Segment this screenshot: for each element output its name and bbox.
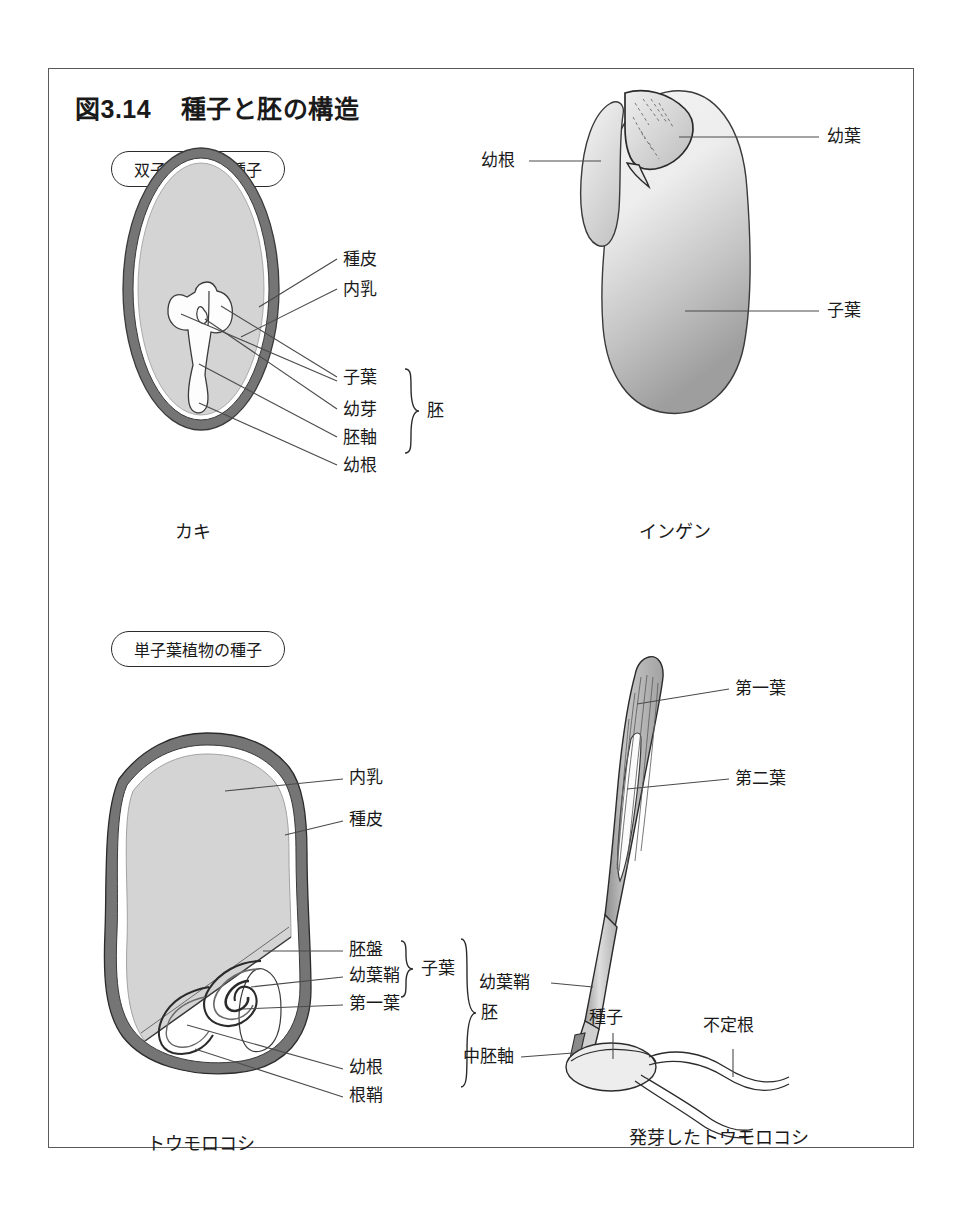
label-seedling-seed: 種子 <box>589 1009 623 1026</box>
label-seedling-first-leaf: 第一葉 <box>735 680 786 697</box>
persimmon-seed-illustration <box>49 69 489 539</box>
leader-seedling-mesocotyl <box>521 1053 573 1057</box>
corn-kernel-illustration <box>49 669 489 1149</box>
figure-frame: 図3.14 種子と胚の構造 双子葉植物の種子 単子葉植物の種子 <box>48 68 914 1148</box>
label-seedling-mesocotyl: 中胚軸 <box>463 1048 514 1065</box>
seedling-adventitious-root-1 <box>649 1052 789 1082</box>
leader-radicle <box>199 403 337 465</box>
label-bean-radicle: 幼根 <box>481 152 515 169</box>
panel-corn-kernel: 内乳 種皮 胚盤 幼葉鞘 第一葉 幼根 根鞘 子葉 胚 トウモロコシ <box>49 669 489 1149</box>
label-corn-seed-coat: 種皮 <box>349 811 383 828</box>
label-corn-scutellum: 胚盤 <box>349 941 383 958</box>
label-bean-cotyledon: 子葉 <box>827 302 861 319</box>
label-seedling-coleoptile: 幼葉鞘 <box>479 974 530 991</box>
caption-corn-kernel: トウモロコシ <box>147 1129 255 1155</box>
label-corn-endosperm: 内乳 <box>349 769 383 786</box>
caption-bean: インゲン <box>639 517 711 543</box>
bean-radicle-shape <box>581 102 624 247</box>
label-corn-coleoptile: 幼葉鞘 <box>349 967 400 984</box>
label-seed-coat: 種皮 <box>343 251 377 268</box>
seedling-seed-shape <box>566 1043 656 1091</box>
label-bean-young-leaf: 幼葉 <box>827 128 861 145</box>
panel-bean: 幼根 幼葉 子葉 インゲン <box>489 69 915 539</box>
label-embryo-brace: 胚 <box>427 402 444 419</box>
brace-embryo <box>405 369 419 453</box>
label-hypocotyl: 胚軸 <box>343 429 377 446</box>
panel-persimmon: 種皮 内乳 子葉 幼芽 胚軸 幼根 胚 カキ <box>49 69 489 539</box>
caption-corn-seedling: 発芽したトウモロコシ <box>629 1123 809 1149</box>
label-seedling-adventitious-root: 不定根 <box>703 1017 754 1034</box>
label-endosperm: 内乳 <box>343 281 377 298</box>
label-plumule: 幼芽 <box>343 401 377 418</box>
label-cotyledon: 子葉 <box>343 369 377 386</box>
label-corn-cotyledon-brace: 子葉 <box>421 960 455 977</box>
section-pill-monocot: 単子葉植物の種子 <box>111 631 285 667</box>
brace-corn-cotyledon <box>401 941 413 997</box>
leader-seedling-coleoptile <box>551 983 593 987</box>
seedling-adventitious-root-1b <box>649 1061 789 1090</box>
label-corn-coleorhiza: 根鞘 <box>349 1087 383 1104</box>
label-seedling-second-leaf: 第二葉 <box>735 770 786 787</box>
label-corn-first-leaf: 第一葉 <box>349 995 400 1012</box>
corn-seedling-illustration <box>489 589 915 1149</box>
label-corn-radicle: 幼根 <box>349 1059 383 1076</box>
caption-persimmon: カキ <box>175 517 211 543</box>
panel-corn-seedling: 第一葉 第二葉 幼葉鞘 種子 中胚軸 不定根 発芽したトウモロコシ <box>489 589 915 1149</box>
label-radicle: 幼根 <box>343 457 377 474</box>
